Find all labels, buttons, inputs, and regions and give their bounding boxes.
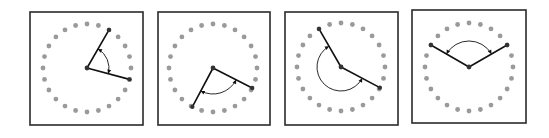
- ring-dot: [509, 53, 514, 58]
- arm-endpoint: [505, 43, 509, 47]
- ring-dot: [467, 21, 472, 26]
- ring-dot: [116, 34, 121, 39]
- ring-dot: [300, 87, 305, 92]
- arm-endpoint: [190, 105, 194, 109]
- ring-dot: [96, 23, 101, 28]
- ring-dot: [242, 34, 247, 39]
- ring-dot: [255, 66, 260, 71]
- panel-4: [412, 10, 526, 123]
- ring-dot: [370, 96, 375, 101]
- ring-dot: [498, 96, 503, 101]
- ring-dot: [199, 108, 204, 113]
- ring-dot: [445, 103, 450, 108]
- ring-dot: [123, 44, 128, 49]
- ring-dot: [168, 54, 173, 59]
- ring-dot: [73, 108, 78, 113]
- arm-endpoint: [317, 27, 321, 31]
- ring-dot: [424, 76, 429, 81]
- ring-dot: [222, 108, 227, 113]
- ring-dot: [127, 54, 132, 59]
- ring-dot: [179, 97, 184, 102]
- ring-dot: [489, 26, 494, 31]
- ring-dot: [361, 26, 366, 31]
- ring-dot: [107, 104, 112, 109]
- ring-dot: [435, 33, 440, 38]
- ring-dot: [509, 76, 514, 81]
- ring-dot: [428, 87, 433, 92]
- ring-dot: [167, 66, 172, 71]
- ring-dot: [505, 87, 510, 92]
- ring-dot: [478, 22, 483, 27]
- ring-dot: [253, 54, 258, 59]
- ring-dot: [296, 76, 301, 81]
- ring-dot: [63, 104, 68, 109]
- ring-dot: [327, 107, 332, 112]
- ring-dot: [317, 103, 322, 108]
- ring-dot: [53, 34, 58, 39]
- ring-dot: [381, 53, 386, 58]
- ring-dot: [46, 44, 51, 49]
- arm-endpoint: [127, 77, 131, 81]
- ring-dot: [222, 23, 227, 28]
- ring-dot: [242, 97, 247, 102]
- ring-dot: [172, 44, 177, 49]
- ring-dot: [467, 109, 472, 114]
- ring-dot: [41, 66, 46, 71]
- ring-dot: [424, 53, 429, 58]
- ring-dot: [498, 33, 503, 38]
- ring-dot: [300, 43, 305, 48]
- panel-2: [158, 12, 270, 125]
- ring-dot: [123, 88, 128, 93]
- ring-dot: [129, 66, 134, 71]
- panel-1: [30, 12, 143, 125]
- ring-dot: [489, 103, 494, 108]
- ring-dot: [381, 76, 386, 81]
- ring-dot: [233, 104, 238, 109]
- ring-dot: [199, 23, 204, 28]
- arm-endpoint: [429, 43, 433, 47]
- center-point: [85, 66, 90, 71]
- center-point: [211, 66, 216, 71]
- ring-dot: [85, 110, 90, 115]
- ring-dot: [350, 107, 355, 112]
- ring-dot: [42, 54, 47, 59]
- arm-endpoint: [378, 85, 382, 89]
- panel-3: [285, 12, 398, 125]
- ring-dot: [361, 103, 366, 108]
- ring-dot: [295, 65, 300, 70]
- ring-dot: [383, 65, 388, 70]
- arm-endpoint: [250, 86, 254, 90]
- ring-dot: [511, 65, 516, 70]
- ring-dot: [435, 96, 440, 101]
- ring-dot: [211, 110, 216, 115]
- ring-dot: [179, 34, 184, 39]
- center-point: [339, 65, 344, 70]
- ring-dot: [377, 43, 382, 48]
- arm-endpoint: [107, 28, 111, 32]
- ring-dot: [116, 97, 121, 102]
- ring-dot: [327, 22, 332, 27]
- ring-dot: [253, 77, 258, 82]
- ring-dot: [233, 27, 238, 32]
- ring-dot: [339, 21, 344, 26]
- ring-dot: [172, 88, 177, 93]
- ring-dot: [478, 107, 483, 112]
- ring-dot: [307, 96, 312, 101]
- ring-dot: [370, 33, 375, 38]
- angle-diagram-figure: [0, 0, 549, 138]
- ring-dot: [423, 65, 428, 70]
- ring-dot: [307, 33, 312, 38]
- ring-dot: [73, 23, 78, 28]
- ring-dot: [455, 107, 460, 112]
- ring-dot: [350, 22, 355, 27]
- ring-dot: [96, 108, 101, 113]
- ring-dot: [168, 77, 173, 82]
- ring-dot: [63, 27, 68, 32]
- panels-group: [30, 10, 526, 125]
- ring-dot: [85, 22, 90, 27]
- ring-dot: [249, 44, 254, 49]
- ring-dot: [46, 88, 51, 93]
- ring-dot: [445, 26, 450, 31]
- center-point: [467, 65, 472, 70]
- ring-dot: [42, 77, 47, 82]
